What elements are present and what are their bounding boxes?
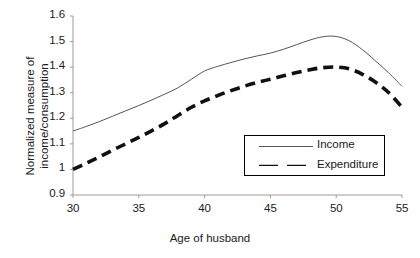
- y-tick-label: 0.9: [37, 187, 65, 199]
- series-line-income: [73, 36, 402, 131]
- legend-label-expenditure: Expenditure: [317, 158, 378, 170]
- y-tick-label: 1.4: [37, 59, 65, 71]
- y-tick-label: 1.5: [37, 34, 65, 46]
- x-tick-label: 30: [58, 202, 88, 214]
- legend-swatch-expenditure-icon: [259, 164, 313, 166]
- x-tick-label: 45: [255, 202, 285, 214]
- legend-swatch-income-icon: [259, 145, 313, 147]
- y-tick-label: 1.1: [37, 136, 65, 148]
- chart-legend: Income Expenditure: [244, 135, 385, 176]
- y-tick-label: 1: [37, 161, 65, 173]
- legend-item-income: Income: [245, 136, 386, 155]
- y-tick-label: 1.3: [37, 85, 65, 97]
- x-tick-label: 35: [124, 202, 154, 214]
- x-tick-label: 55: [387, 202, 417, 214]
- legend-label-income: Income: [317, 138, 355, 150]
- y-tick-label: 1.2: [37, 110, 65, 122]
- y-axis-title-line1: Normalized measure of: [24, 57, 36, 176]
- chart-figure: Normalized measure of income/consumption…: [0, 0, 420, 258]
- x-tick-label: 50: [321, 202, 351, 214]
- legend-item-expenditure: Expenditure: [245, 156, 386, 175]
- x-tick-label: 40: [190, 202, 220, 214]
- y-tick-label: 1.6: [37, 8, 65, 20]
- x-axis-title: Age of husband: [0, 232, 420, 244]
